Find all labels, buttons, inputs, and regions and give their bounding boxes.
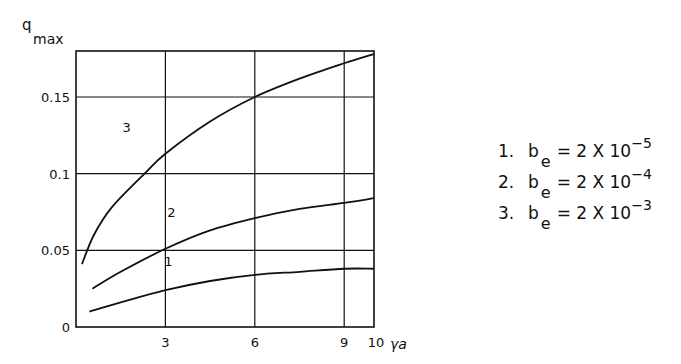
legend-subscript: e <box>541 214 551 233</box>
curve-label-1: 1 <box>164 254 172 269</box>
grid <box>76 51 374 327</box>
y-tick-label: 0.05 <box>41 243 70 258</box>
plot-frame <box>76 51 374 327</box>
legend-relation: = 2 X 10 <box>557 172 632 192</box>
series-line-1 <box>89 269 374 312</box>
x-tick-label: 3 <box>161 335 169 350</box>
legend-exponent: −3 <box>631 197 652 213</box>
x-axis-label-text: γa <box>390 336 407 352</box>
legend-number: 3. <box>498 198 528 229</box>
x-axis-ticks: 36910 <box>161 335 384 350</box>
legend-exponent: −5 <box>631 135 652 151</box>
legend-number: 1. <box>498 136 528 167</box>
y-tick-label: 0.15 <box>41 90 70 105</box>
legend-item-3: 3.be= 2 X 10−3 <box>498 198 652 229</box>
legend-item-1: 1.be= 2 X 10−5 <box>498 136 652 167</box>
x-tick-label: 9 <box>340 335 348 350</box>
y-tick-label: 0 <box>62 320 70 335</box>
series-line-2 <box>92 198 374 288</box>
curve-label-2: 2 <box>167 205 175 220</box>
curve-label-3: 3 <box>123 120 131 135</box>
legend-relation: = 2 X 10 <box>557 141 632 161</box>
legend-relation: = 2 X 10 <box>557 203 632 223</box>
legend-number: 2. <box>498 167 528 198</box>
series-line-3 <box>82 54 374 264</box>
legend-symbol: b <box>528 198 539 229</box>
legend-exponent: −4 <box>631 166 652 182</box>
y-axis-label: q max <box>22 16 64 47</box>
y-tick-label: 0.1 <box>49 167 70 182</box>
legend-symbol: b <box>528 136 539 167</box>
x-tick-label: 10 <box>368 335 385 350</box>
y-axis-label-sub: max <box>33 31 64 47</box>
legend-symbol: b <box>528 167 539 198</box>
legend: 1.be= 2 X 10−5 2.be= 2 X 10−4 3.be= 2 X … <box>498 136 652 229</box>
y-axis-label-main: q <box>22 16 32 34</box>
x-tick-label: 6 <box>251 335 259 350</box>
series-lines <box>82 54 374 312</box>
y-axis-ticks: 00.050.10.15 <box>41 90 70 335</box>
x-axis-label: γa <box>390 336 407 352</box>
legend-item-2: 2.be= 2 X 10−4 <box>498 167 652 198</box>
